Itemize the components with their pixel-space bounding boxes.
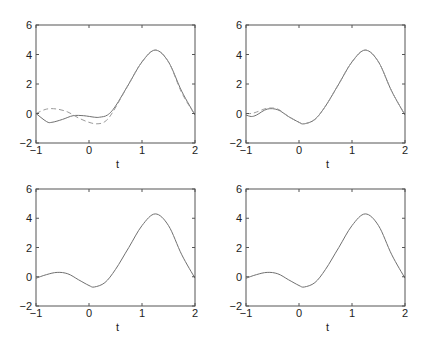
series-estimate-line [36, 50, 195, 124]
y-tick-label: 2 [236, 78, 242, 90]
series-true-line [246, 214, 405, 287]
axes-frame [246, 25, 405, 143]
figure: −1012−20246t−1012−20246t−1012−20246t−101… [0, 0, 426, 347]
y-tick-label: −2 [19, 300, 32, 312]
x-axis-label: t [326, 158, 329, 170]
y-tick-label: 4 [26, 212, 32, 224]
y-tick-label: 2 [26, 242, 32, 254]
x-axis-label: t [116, 158, 119, 170]
series-true-line [246, 50, 405, 124]
y-tick-label: 6 [26, 183, 32, 195]
x-tick-label: 2 [402, 307, 408, 319]
series-estimate-line [246, 50, 405, 124]
subplot-top-left: −1012−20246t [19, 19, 198, 170]
subplot-bottom-right: −1012−20246t [229, 183, 408, 333]
axes-frame [36, 189, 195, 306]
x-tick-label: 1 [349, 307, 355, 319]
y-tick-label: 6 [26, 19, 32, 31]
x-tick-label: 2 [192, 307, 198, 319]
y-tick-label: 4 [26, 49, 32, 61]
y-tick-label: 0 [26, 108, 32, 120]
x-tick-label: 1 [139, 307, 145, 319]
axes-frame [246, 189, 405, 306]
y-tick-label: 2 [236, 242, 242, 254]
x-tick-label: 0 [86, 144, 92, 156]
x-axis-label: t [326, 321, 329, 333]
x-tick-label: 0 [296, 307, 302, 319]
y-tick-label: 0 [236, 108, 242, 120]
y-tick-label: −2 [229, 300, 242, 312]
x-tick-label: 1 [139, 144, 145, 156]
x-tick-label: 0 [86, 307, 92, 319]
y-tick-label: −2 [19, 137, 32, 149]
y-tick-label: 4 [236, 212, 242, 224]
y-tick-label: −2 [229, 137, 242, 149]
series-true-line [36, 50, 195, 123]
y-tick-label: 6 [236, 183, 242, 195]
axes-frame [36, 25, 195, 143]
x-tick-label: 0 [296, 144, 302, 156]
x-axis-label: t [116, 321, 119, 333]
subplot-top-right: −1012−20246t [229, 19, 408, 170]
x-tick-label: 1 [349, 144, 355, 156]
x-tick-label: 2 [402, 144, 408, 156]
y-tick-label: 0 [236, 271, 242, 283]
series-true-line [36, 214, 195, 287]
y-tick-label: 6 [236, 19, 242, 31]
y-tick-label: 4 [236, 49, 242, 61]
y-tick-label: 2 [26, 78, 32, 90]
x-tick-label: 2 [192, 144, 198, 156]
y-tick-label: 0 [26, 271, 32, 283]
subplot-bottom-left: −1012−20246t [19, 183, 198, 333]
